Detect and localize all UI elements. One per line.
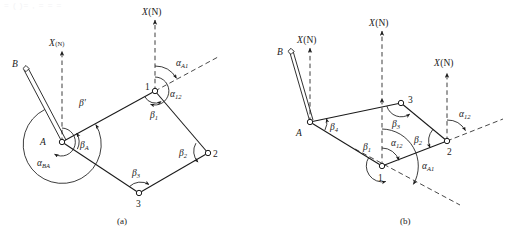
axis-label-X-A: X(N): [48, 38, 64, 48]
panel-a-label-beta-3: β3: [131, 168, 141, 179]
panel-a-station-3-marker: [136, 190, 141, 195]
panel-b-axis-at-2: X(N): [433, 58, 454, 141]
panel-a: B X(N) A αBA β′ βA: [12, 7, 218, 226]
panel-b-label-beta-4: β4: [329, 122, 339, 133]
panel-b-arc-alpha-A1: [382, 129, 418, 184]
panel-a-label-beta-2: β2: [178, 148, 188, 159]
panel-b-label-3: 3: [408, 95, 413, 105]
panel-a-axis-at-A: X(N): [48, 38, 64, 142]
panel-a-station-1-marker: [152, 88, 157, 93]
panel-a-label-beta-A: βA: [79, 140, 89, 151]
panel-b-axis-at-1: X(N): [368, 18, 389, 166]
panel-b-station-1-marker: [379, 163, 384, 168]
traverse-angle-figure: B X(N) A αBA β′ βA: [0, 0, 515, 235]
panel-a-arc-beta-3: [129, 182, 149, 187]
panel-b-arc-alpha-12-at-1: [382, 148, 399, 160]
rod-edge-2: [293, 51, 313, 120]
panel-b-station-2-marker: [444, 138, 449, 143]
leg-A-3: [310, 103, 401, 122]
axis-label-X-1: X(N): [141, 7, 162, 18]
panel-b-label-beta-2: β2: [413, 135, 423, 146]
rod-edge-1: [290, 53, 310, 122]
panel-a-label-beta-prime: β′: [78, 98, 87, 108]
panel-b-label-B: B: [277, 47, 283, 57]
panel-b-arc-beta-4: [325, 119, 327, 131]
panel-b-arc-alpha-12-at-2: [447, 120, 466, 131]
leg-A-1: [62, 91, 155, 142]
panel-b-axis-label-X-A: X(N): [296, 35, 317, 46]
panel-b-label-alpha-12-at-2: α12: [459, 109, 471, 120]
panel-b-label-beta-1: β1: [362, 142, 371, 153]
panel-a-label-3: 3: [136, 199, 141, 209]
panel-a-arc-beta-1: [145, 97, 161, 103]
panel-b-axis-label-X-2: X(N): [433, 58, 454, 69]
panel-b-caption: (b): [400, 216, 411, 226]
panel-a-label-alpha-A1: αA1: [176, 58, 188, 69]
panel-a-point-A-marker: [59, 139, 64, 144]
panel-b-label-beta-3: β3: [391, 119, 401, 130]
rod-edge-2: [28, 68, 66, 140]
panel-b-arc-beta-2: [429, 129, 433, 147]
leg-2-3: [139, 153, 208, 193]
panel-b-label-A: A: [295, 128, 302, 138]
panel-b-dashed-extension-12: [447, 119, 503, 141]
panel-a-label-2: 2: [213, 149, 218, 159]
panel-a-label-A: A: [39, 137, 46, 147]
panel-b-station-3-marker: [398, 100, 403, 105]
panel-b-traverse-lines: [310, 103, 447, 166]
leg-1-A: [310, 122, 382, 166]
panel-a-arc-beta-A: [77, 133, 79, 149]
panel-b-axis-label-X-1: X(N): [368, 18, 389, 29]
panel-a-axis-at-1: X(N): [141, 7, 162, 91]
panel-a-label-alpha-BA: αBA: [37, 158, 50, 169]
panel-a-backsight-rod: [24, 68, 66, 142]
panel-b-arc-beta-1: [366, 157, 385, 182]
panel-b-label-alpha-12-at-1: α12: [391, 138, 403, 149]
panel-a-label-1: 1: [145, 82, 150, 92]
panel-b-backsight-rod: [290, 51, 313, 122]
leg-1-2: [155, 91, 208, 153]
leg-3-2: [401, 103, 447, 141]
panel-b-label-2: 2: [447, 147, 452, 157]
panel-b-label-1: 1: [378, 173, 383, 183]
panel-a-arc-alpha-A1: [155, 66, 177, 78]
panel-a-station-2-marker: [205, 150, 210, 155]
panel-a-label-alpha-12: α12: [170, 89, 182, 100]
panel-a-caption: (a): [117, 216, 127, 226]
panel-b-label-alpha-A1: αA1: [422, 161, 434, 172]
panel-a-label-B: B: [12, 59, 18, 69]
panel-b: B X(N) A β4 X(N) 3: [277, 18, 503, 226]
rod-edge-1: [24, 70, 62, 142]
panel-b-point-B-marker: [288, 48, 294, 54]
panel-a-label-beta-1: β1: [149, 110, 158, 121]
panel-a-arc-beta-prime: [23, 110, 101, 184]
point-B-marker: [23, 66, 29, 72]
panel-b-point-A-marker: [307, 119, 312, 124]
